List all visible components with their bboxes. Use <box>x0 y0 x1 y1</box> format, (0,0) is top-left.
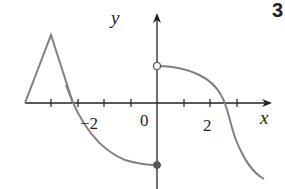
x-tick-label-0: 0 <box>140 112 149 129</box>
x-tick-label-2: 2 <box>203 117 212 134</box>
x-tick-label-neg2: −2 <box>80 115 98 132</box>
closed-endpoint-dot <box>154 162 161 169</box>
triangle-segment <box>25 35 73 103</box>
y-axis-label: y <box>111 8 119 27</box>
right-decreasing-curve <box>160 66 264 179</box>
exercise-number: 3 <box>272 0 283 20</box>
function-graph <box>0 0 285 189</box>
x-axis-label: x <box>260 108 268 127</box>
open-endpoint-circle <box>154 63 161 70</box>
